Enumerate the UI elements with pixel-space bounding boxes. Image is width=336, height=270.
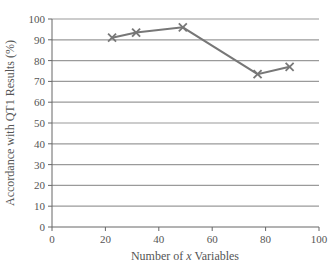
x-axis-tick-labels: 020406080100 — [49, 233, 328, 245]
x-tick-label: 20 — [100, 233, 112, 245]
line-chart: 0102030405060708090100 020406080100 Acco… — [0, 0, 336, 270]
x-tick-label: 40 — [153, 233, 165, 245]
y-tick-label: 40 — [34, 138, 46, 150]
x-tick-label: 60 — [207, 233, 219, 245]
y-tick-label: 50 — [34, 117, 46, 129]
x-axis-label: Number of x Variables — [131, 249, 239, 263]
y-tick-label: 0 — [40, 221, 46, 233]
y-tick-label: 60 — [34, 96, 46, 108]
x-tick-label: 100 — [311, 233, 328, 245]
x-tick-label: 0 — [49, 233, 55, 245]
y-tick-label: 10 — [34, 200, 46, 212]
axes — [48, 19, 319, 231]
y-tick-label: 20 — [34, 179, 46, 191]
gridlines — [52, 19, 319, 206]
y-tick-label: 80 — [34, 55, 46, 67]
y-tick-label: 30 — [34, 159, 46, 171]
y-tick-label: 100 — [29, 13, 46, 25]
y-axis-tick-labels: 0102030405060708090100 — [29, 13, 46, 233]
y-tick-label: 70 — [34, 75, 46, 87]
y-tick-label: 90 — [34, 34, 46, 46]
y-axis-label: Accordance with QT1 Results (%) — [3, 40, 17, 206]
data-series — [108, 23, 294, 78]
x-tick-label: 80 — [260, 233, 272, 245]
